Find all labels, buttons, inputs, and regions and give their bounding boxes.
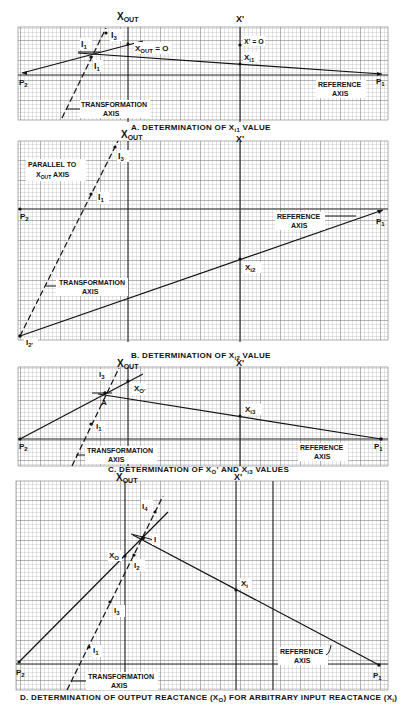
panel-a-caption: A. DETERMINATION OF Xi1 VALUE [131, 123, 271, 133]
panel-c-label-reference-axis: AXIS [314, 453, 331, 460]
panel-b-label-reference: REFERENCE [277, 213, 321, 220]
panel-c: XOUT X' I3 XO' A I1 Xi3 REFERENCE AXIS P… [18, 358, 388, 475]
panel-d-xprime-label: X' [234, 472, 242, 482]
panel-d-point-xo [123, 554, 126, 557]
panel-c-label-transformation: TRANSFORMATION [87, 447, 153, 454]
panel-d-label-reference: REFERENCE [280, 648, 324, 655]
panel-d-point-xi [234, 588, 237, 591]
panel-d-grid [16, 481, 388, 690]
panel-c-point-xi3 [238, 414, 241, 417]
panel-c-xprime-label: X' [236, 358, 244, 368]
panel-a-point-i3 [104, 31, 107, 34]
panel-c-label-transformation-axis: AXIS [108, 456, 125, 463]
panel-c-label-a: A [101, 398, 107, 407]
panel-a-point-xprime-zero [238, 43, 241, 46]
panel-a-label-transformation-axis: AXIS [103, 110, 120, 117]
panel-d-point-i4 [153, 510, 156, 513]
panel-b-label-reference-axis: AXIS [291, 222, 308, 229]
panel-c-point-xo-prime [126, 379, 129, 382]
panel-c-point-p2 [18, 437, 21, 440]
panel-b-point-i3 [113, 145, 116, 148]
panel-a-label-reference-axis: AXIS [332, 90, 349, 97]
nomograph-figure: XOUT X' I3 I1 I1 XOUT = O X' = O Xi1 REF… [0, 0, 401, 714]
panel-b-label-transformation-axis: AXIS [82, 288, 99, 295]
panel-d-label-transformation: TRANSFORMATION [88, 673, 154, 680]
panel-d-point-i [141, 536, 145, 540]
panel-d-point-p2 [17, 660, 20, 663]
panel-c-point-a [103, 391, 107, 395]
panel-c-label-reference: REFERENCE [300, 444, 344, 451]
panel-a-label-xprime-zero: X' = O [244, 38, 264, 45]
panel-a-point-xi1 [238, 62, 241, 65]
panel-b-xprime-label: X' [236, 134, 244, 144]
panel-a-xprime-label: X' [236, 14, 244, 24]
panel-c-point-p1 [379, 437, 383, 441]
panel-c-point-i1 [89, 422, 92, 425]
panel-d-label-reference-axis: AXIS [294, 657, 311, 664]
panel-d-label-i: I [154, 535, 156, 544]
panel-a-label-transformation: TRANSFORMATION [81, 101, 147, 108]
panel-a: XOUT X' I3 I1 I1 XOUT = O X' = O Xi1 REF… [18, 11, 388, 133]
panel-d-point-i1 [87, 645, 90, 648]
panel-d-caption: D. DETERMINATION OF OUTPUT REACTANCE (XO… [20, 693, 397, 703]
panel-a-xout-label: XOUT [117, 11, 139, 23]
panel-a-label-reference: REFERENCE [318, 81, 362, 88]
panel-a-grid [18, 27, 388, 120]
panel-a-point-xout-zero [126, 42, 129, 45]
panel-b-point-p2 [18, 207, 21, 210]
panel-b-label-transformation: TRANSFORMATION [59, 279, 125, 286]
panel-d-label-transformation-axis: AXIS [111, 682, 128, 689]
panel-d-point-i3 [108, 600, 111, 603]
panel-b-point-i1 [89, 192, 92, 195]
panel-d: XOUT X' I4 I XO I2 I3 I1 Xi REFERENCE AX… [16, 472, 397, 703]
panel-b-caption: B. DETERMINATION OF Xi2 VALUE [131, 351, 271, 361]
panel-a-point-i1 [89, 55, 92, 58]
panel-b-point-xi2 [238, 257, 241, 260]
panel-c-caption: C. DETERMINATION OF XO' AND Xi3 VALUES [108, 465, 289, 475]
panel-b-label-parallel: PARALLEL TO [28, 161, 77, 168]
panel-b: XOUT X' I3 I1 PARALLEL TO XOUT AXIS Xi2 … [18, 129, 388, 361]
panel-b-point-i2prime [18, 334, 22, 338]
panel-d-point-i2 [132, 553, 135, 556]
panel-d-point-p1 [377, 663, 381, 667]
